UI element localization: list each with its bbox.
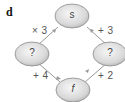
arrowhead-icon <box>56 76 61 80</box>
arrowhead-icon <box>85 69 89 73</box>
edge-right-top-op: + 3 <box>98 25 114 36</box>
edge-left-top-op: × 3 <box>32 25 48 36</box>
node-bottom-label: f <box>55 83 91 94</box>
edge-bottom-right-op: + 2 <box>98 70 114 81</box>
node-right-label: ? <box>92 47 125 58</box>
node-top-label: s <box>54 9 90 20</box>
node-left-label: ? <box>14 47 50 58</box>
edge-left-bottom-op: + 4 <box>33 70 49 81</box>
